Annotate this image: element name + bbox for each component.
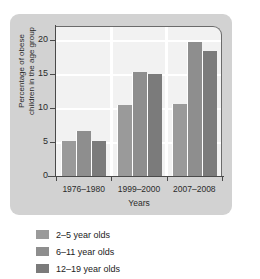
legend-item: 2–5 year olds: [36, 226, 236, 243]
x-tick-label: 2007–2008: [164, 184, 224, 194]
legend-label: 2–5 year olds: [56, 230, 110, 240]
plot-area: [56, 26, 222, 176]
bar: [91, 141, 106, 176]
y-tick-10: [50, 108, 56, 109]
legend-swatch-icon: [36, 264, 49, 273]
x-tick: [167, 176, 168, 181]
legend-item: 6–11 year olds: [36, 243, 236, 260]
bar: [61, 141, 76, 176]
y-tick-label: 0: [26, 171, 48, 180]
group-separator-1: [110, 27, 113, 176]
bar: [202, 51, 217, 176]
bar: [147, 74, 162, 176]
bar: [172, 104, 187, 176]
chart-legend: 2–5 year olds6–11 year olds12–19 year ol…: [36, 226, 236, 277]
y-tick-label: 5: [26, 137, 48, 146]
y-tick-15: [50, 74, 56, 75]
x-tick: [111, 176, 112, 181]
y-tick-label: 10: [26, 103, 48, 112]
legend-label: 12–19 year olds: [56, 264, 120, 274]
x-tick-label: 1976–1980: [54, 184, 114, 194]
gridline-20: [56, 40, 221, 42]
plot-inner: [56, 27, 221, 176]
x-tick-label: 1999–2000: [109, 184, 169, 194]
x-axis-line: [48, 176, 224, 177]
bar: [117, 105, 132, 176]
legend-swatch-icon: [36, 247, 49, 256]
x-tick: [56, 176, 57, 181]
legend-item: 12–19 year olds: [36, 260, 236, 277]
y-tick-5: [50, 142, 56, 143]
x-axis-title: Years: [56, 198, 222, 208]
y-tick-label: 20: [26, 35, 48, 44]
chart-figure: Percentage of obese children in the age …: [0, 0, 260, 279]
bar: [187, 42, 202, 176]
legend-label: 6–11 year olds: [56, 247, 114, 257]
bar: [132, 72, 147, 176]
y-tick-label: 15: [26, 69, 48, 78]
y-tick-20: [50, 40, 56, 41]
x-tick: [222, 176, 223, 181]
group-separator-2: [165, 27, 168, 176]
bar: [76, 131, 91, 176]
y-axis-line: [55, 25, 56, 177]
legend-swatch-icon: [36, 230, 49, 239]
